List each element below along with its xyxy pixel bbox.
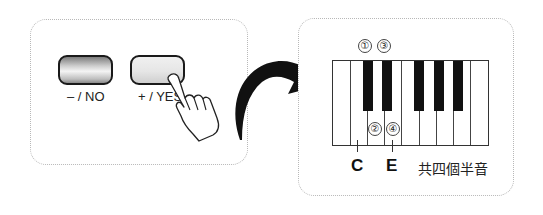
step-marker-4: ④	[386, 122, 400, 136]
note-c-tick	[357, 140, 358, 152]
black-key-d-sharp[interactable]	[382, 61, 392, 111]
note-label-c: C	[351, 156, 363, 176]
step-marker-2: ②	[368, 122, 382, 136]
white-key[interactable]	[471, 61, 489, 145]
note-e-tick	[392, 140, 393, 152]
black-key-g-sharp[interactable]	[434, 61, 444, 111]
white-key[interactable]	[333, 61, 351, 145]
minus-no-label: – / NO	[67, 89, 105, 104]
step-marker-1: ①	[358, 39, 372, 53]
minus-no-button[interactable]	[58, 55, 113, 85]
note-label-e: E	[386, 156, 397, 176]
step-marker-3: ③	[377, 39, 391, 53]
piano-keyboard	[332, 60, 489, 146]
black-key-a-sharp[interactable]	[453, 61, 463, 111]
black-key-f-sharp[interactable]	[414, 61, 424, 111]
black-key-c-sharp[interactable]	[363, 61, 373, 111]
semitone-caption: 共四個半音	[418, 158, 488, 178]
hand-pointer-icon	[163, 72, 225, 142]
